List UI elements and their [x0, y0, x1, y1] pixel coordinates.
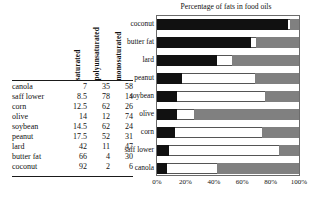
cell-saturated: 42 [64, 142, 87, 152]
segment-polyunsaturated [177, 91, 265, 102]
stacked-bars-layer [157, 16, 299, 175]
table-row: canola 7 35 58 [12, 82, 133, 92]
segment-monosaturated [232, 55, 299, 66]
segment-monosaturated [265, 91, 299, 102]
category-label-butter-fat: butter fat [102, 38, 154, 45]
column-header-polyunsaturated: polyunsaturated [93, 27, 100, 80]
cell-oil-name: olive [12, 112, 64, 122]
cell-oil-name: lard [12, 142, 64, 152]
cell-oil-name: canola [12, 82, 64, 92]
cell-saturated: 92 [64, 162, 87, 172]
segment-polyunsaturated [177, 109, 194, 120]
segment-saturated [157, 145, 169, 156]
segment-saturated [157, 91, 177, 102]
segment-saturated [157, 55, 217, 66]
segment-saturated [157, 127, 175, 138]
figure-root: saturated polyunsaturated monosaturated … [0, 0, 310, 199]
cell-polyunsaturated: 35 [87, 82, 110, 92]
segment-monosaturated [290, 19, 299, 30]
segment-saturated [157, 73, 182, 84]
segment-polyunsaturated [175, 127, 263, 138]
segment-monosaturated [217, 163, 299, 174]
xtick-100pct: 100% [291, 179, 307, 186]
category-label-olive: olive [102, 110, 154, 117]
segment-monosaturated [255, 73, 299, 84]
segment-saturated [157, 109, 177, 120]
category-label-lard: lard [102, 56, 154, 63]
cell-saturated: 8.5 [64, 92, 87, 102]
category-label-corn: corn [102, 128, 154, 135]
xtick-40pct: 40% [207, 179, 220, 186]
cell-saturated: 7 [64, 82, 87, 92]
category-label-saff-lower: saff lower [102, 146, 154, 153]
stacked-bar-peanut [157, 73, 299, 84]
category-label-coconut: coconut [102, 20, 154, 27]
cell-saturated: 12.5 [64, 102, 87, 112]
cell-oil-name: corn [12, 102, 64, 112]
cell-oil-name: peanut [12, 132, 64, 142]
segment-polyunsaturated [167, 163, 217, 174]
cell-oil-name: saff lower [12, 92, 64, 102]
segment-polyunsaturated [217, 55, 233, 66]
chart-panel: Percentage of fats in food oils coconutb… [142, 0, 310, 199]
stacked-bar-saff-lower [157, 145, 299, 156]
segment-monosaturated [279, 145, 299, 156]
segment-monosaturated [262, 127, 299, 138]
segment-polyunsaturated [169, 145, 279, 156]
plot-area [156, 15, 300, 176]
xtick-20pct: 20% [179, 179, 192, 186]
cell-oil-name: butter fat [12, 152, 64, 162]
cell-oil-name: coconut [12, 162, 64, 172]
cell-oil-name: soybean [12, 122, 64, 132]
xtick-80pct: 80% [264, 179, 277, 186]
stacked-bar-canola [157, 163, 299, 174]
segment-monosaturated [194, 109, 299, 120]
segment-saturated [157, 19, 288, 30]
table-bottom-rule [12, 176, 133, 177]
stacked-bar-olive [157, 109, 299, 120]
category-label-peanut: peanut [102, 74, 154, 81]
segment-saturated [157, 163, 167, 174]
category-label-soybean: soybean [102, 92, 154, 99]
cell-saturated: 66 [64, 152, 87, 162]
stacked-bar-corn [157, 127, 299, 138]
stacked-bar-soybean [157, 91, 299, 102]
segment-polyunsaturated [182, 73, 255, 84]
xtick-0pct: 0% [152, 179, 161, 186]
cell-saturated: 14.5 [64, 122, 87, 132]
stacked-bar-lard [157, 55, 299, 66]
stacked-bar-coconut [157, 19, 299, 30]
stacked-bar-butter-fat [157, 37, 299, 48]
cell-saturated: 17.5 [64, 132, 87, 142]
segment-monosaturated [256, 37, 299, 48]
category-label-canola: canola [102, 164, 154, 171]
cell-saturated: 14 [64, 112, 87, 122]
chart-title: Percentage of fats in food oils [142, 3, 310, 11]
xtick-60pct: 60% [236, 179, 249, 186]
column-header-saturated: saturated [74, 49, 81, 80]
segment-saturated [157, 37, 251, 48]
